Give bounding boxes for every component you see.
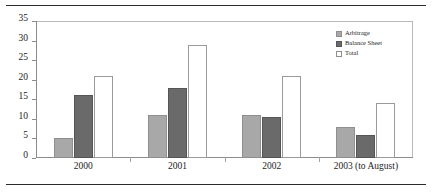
- bar: [148, 115, 167, 158]
- legend-swatch-icon: [336, 51, 342, 57]
- y-axis-tick-label: 35: [19, 14, 29, 24]
- x-axis-separator-tick: [130, 157, 131, 162]
- bar-group: [36, 21, 130, 158]
- legend-item-label: Balance Sheet: [345, 40, 382, 47]
- bar: [94, 76, 113, 158]
- legend-item: Balance Sheet: [336, 39, 382, 48]
- top-rule: [6, 5, 426, 6]
- legend-swatch-icon: [336, 31, 342, 37]
- bar: [376, 103, 395, 158]
- y-axis-tick-label: 5: [23, 131, 28, 141]
- x-axis-tick-label: 2000: [36, 162, 130, 172]
- bar: [262, 117, 281, 158]
- legend-item-label: Arbitrage: [345, 30, 370, 37]
- bar: [282, 76, 301, 158]
- chart-legend: ArbitrageBalance SheetTotal: [336, 29, 382, 58]
- bottom-rule: [6, 184, 426, 185]
- bar: [336, 127, 355, 158]
- y-axis-tick-label: 0: [23, 151, 28, 161]
- bar: [242, 115, 261, 158]
- x-axis-tick-label: 2001: [130, 162, 224, 172]
- legend-swatch-icon: [336, 41, 342, 47]
- y-axis-tick-mark: [32, 158, 36, 159]
- legend-item-label: Total: [345, 50, 358, 57]
- x-axis-tick-label: 2002: [225, 162, 319, 172]
- y-axis-tick-label: 20: [19, 73, 29, 83]
- x-axis-separator-tick: [225, 157, 226, 162]
- y-axis-tick-label: 15: [19, 92, 29, 102]
- y-axis-tick-label: 30: [19, 34, 29, 44]
- bar: [188, 45, 207, 159]
- legend-item: Arbitrage: [336, 29, 382, 38]
- legend-item: Total: [336, 49, 382, 58]
- bar-group: [130, 21, 224, 158]
- figure: 05101520253035 2000200120022003 (to Augu…: [0, 0, 432, 193]
- bar: [356, 135, 375, 158]
- y-axis-tick-label: 25: [19, 53, 29, 63]
- y-axis-tick-label: 10: [19, 112, 29, 122]
- bar: [54, 138, 73, 158]
- x-axis-tick-label: 2003 (to August): [319, 162, 413, 172]
- bar: [74, 95, 93, 158]
- bar: [168, 88, 187, 158]
- bar-group: [225, 21, 319, 158]
- x-axis-separator-tick: [319, 157, 320, 162]
